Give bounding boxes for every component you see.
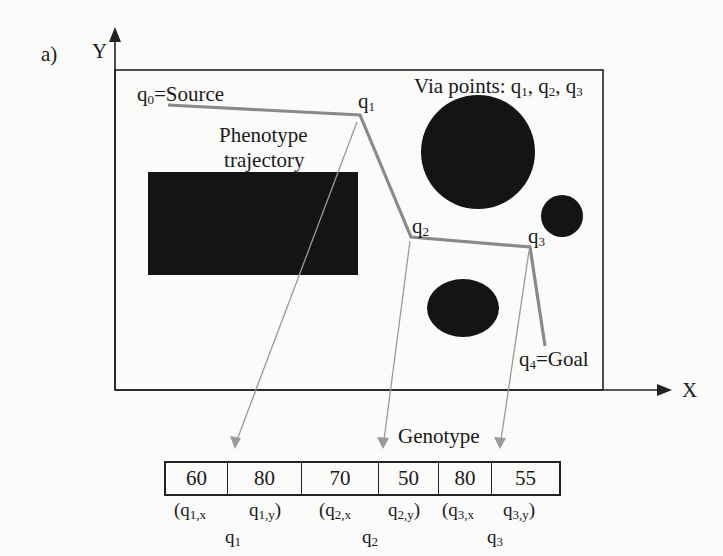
obstacle-rectangle	[148, 172, 358, 275]
via-points-label: Via points: q1, q2, q3	[414, 76, 583, 98]
genotype-table: 60 80 70 50 80 55	[164, 461, 561, 496]
mapping-arrow-q2	[384, 241, 410, 440]
q1-label: q1	[358, 91, 375, 113]
component-label-q1x: (q1,x	[174, 500, 206, 521]
genotype-cell-q2x: 70	[302, 463, 379, 494]
arrowhead-q3-icon	[494, 437, 506, 449]
component-label-q3x: (q3,x	[442, 500, 474, 521]
genotype-cell-q3y: 55	[492, 463, 559, 494]
obstacle-lower-ellipse	[427, 279, 499, 337]
q2-label: q2	[412, 216, 429, 238]
group-label-q1: q1	[225, 527, 241, 548]
y-axis-arrow-icon	[109, 27, 121, 42]
component-label-q1y: q1,y)	[249, 500, 281, 521]
arrowhead-q2-icon	[377, 437, 389, 449]
genotype-label: Genotype	[398, 426, 480, 447]
q3-label: q3	[528, 226, 545, 248]
arrowhead-q1-icon	[230, 436, 241, 449]
component-label-q3y: q3,y)	[503, 500, 535, 521]
obstacle-large-circle	[421, 95, 535, 209]
obstacle-small-circle	[541, 195, 583, 237]
genotype-cell-q3x: 80	[439, 463, 492, 494]
genotype-cell-q2y: 50	[379, 463, 439, 494]
y-axis-label: Y	[92, 41, 107, 62]
group-label-q3: q3	[487, 527, 503, 548]
panel-label: a)	[41, 44, 57, 65]
mapping-arrow-q3	[501, 251, 529, 440]
phenotype-trajectory-label: Phenotype trajectory	[219, 123, 308, 173]
genotype-cell-q1y: 80	[228, 463, 302, 494]
group-label-q2: q2	[362, 527, 378, 548]
component-label-q2y: q2,y)	[388, 500, 420, 521]
component-label-q2x: (q2,x	[319, 500, 351, 521]
genotype-cell-q1x: 60	[166, 463, 228, 494]
x-axis-arrow-icon	[657, 384, 672, 396]
x-axis-label: X	[682, 380, 697, 401]
source-label: q0=Source	[137, 84, 224, 106]
goal-label: q4=Goal	[519, 349, 589, 371]
